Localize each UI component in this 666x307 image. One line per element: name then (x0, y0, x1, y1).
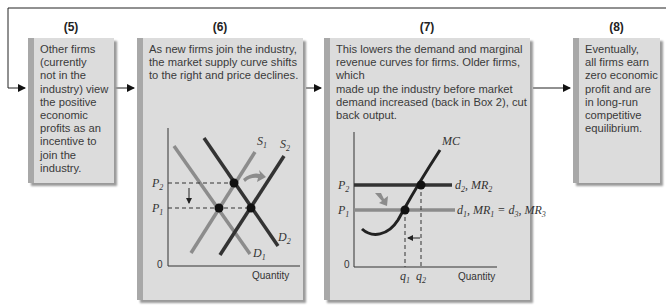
label-d1-mr1-d3-mr3: d1, MR1 = d3, MR3 (457, 203, 546, 219)
firm-cost-revenue-chart: MC P2 P1 d2, MR2 d1, MR1 = d3, MR3 0 q1 … (0, 0, 666, 307)
demand-shift-arrow (375, 193, 388, 206)
equilibrium-point (401, 206, 410, 215)
label-p1: P1 (337, 203, 349, 219)
label-p2: P2 (337, 178, 349, 194)
equilibrium-point (417, 181, 426, 190)
label-quantity: Quantity (458, 271, 495, 282)
curve-mc (362, 150, 440, 234)
label-origin: 0 (344, 259, 350, 270)
label-q2: q2 (416, 269, 426, 285)
label-mc: MC (441, 134, 461, 148)
label-d2-mr2: d2, MR2 (455, 178, 492, 194)
label-q1: q1 (400, 269, 410, 285)
